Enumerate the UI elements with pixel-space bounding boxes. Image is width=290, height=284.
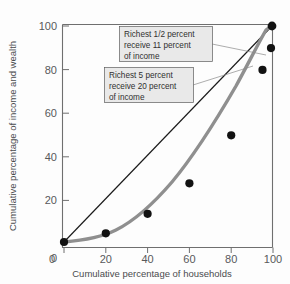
data-point-100-100 [268, 22, 277, 31]
x-tick-label-60: 60 [183, 253, 195, 265]
annotation-box-1-line-2: receive 11 percent [124, 41, 191, 50]
chart-canvas: 100 80 60 40 20 0 0 20 40 60 80 100 Cumu… [0, 0, 290, 284]
y-tick-label-40: 40 [45, 151, 57, 163]
annotation-box-2-line-3: of income [109, 93, 145, 102]
data-point-40-13 [144, 210, 152, 218]
y-tick-label-80: 80 [45, 64, 57, 76]
lorenz-curve-figure: 100 80 60 40 20 0 0 20 40 60 80 100 Cumu… [0, 0, 290, 284]
data-point-0-0 [60, 238, 68, 246]
x-axis-ticks [64, 248, 273, 254]
x-axis-title: Cumulative percentage of households [72, 268, 232, 279]
y-tick-label-60: 60 [45, 107, 57, 119]
y-axis-ticks [63, 26, 70, 200]
data-point-80-49 [227, 131, 235, 139]
y-axis-title: Cumulative percentage of income and weal… [7, 41, 18, 231]
annotation-box-2-line-2: receive 20 percent [109, 82, 177, 91]
y-tick-label-20: 20 [45, 194, 57, 206]
x-tick-label-100: 100 [264, 253, 282, 265]
y-axis-tick-labels: 100 80 60 40 20 0 [39, 20, 57, 264]
annotation-richest-five-percent: Richest 5 percent receive 20 percent of … [105, 68, 194, 103]
y-tick-label-100: 100 [39, 20, 57, 32]
x-tick-label-80: 80 [225, 253, 237, 265]
annotation-box-1-line-1: Richest 1/2 percent [124, 30, 195, 39]
annotation-box-2-line-1: Richest 5 percent [109, 71, 173, 80]
data-point-95-79 [258, 66, 266, 74]
data-point-20-4 [102, 229, 110, 237]
annotation-box-1-line-3: of income [124, 52, 160, 61]
data-point-99-89 [267, 44, 275, 52]
x-tick-label-20: 20 [100, 253, 112, 265]
leader-line-richest-five-percent [193, 66, 253, 85]
x-tick-label-0: 0 [49, 253, 55, 265]
x-tick-label-40: 40 [141, 253, 153, 265]
annotation-richest-half-percent: Richest 1/2 percent receive 11 percent o… [120, 27, 213, 62]
data-point-60-27 [185, 179, 193, 187]
x-axis-tick-labels: 0 20 40 60 80 100 [49, 253, 282, 265]
